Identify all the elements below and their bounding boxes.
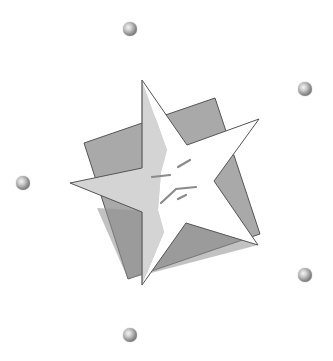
sphere-bottom-icon <box>123 328 137 342</box>
star-square-graphic <box>0 0 333 361</box>
sphere-right-lower-icon <box>298 268 312 282</box>
sphere-right-upper-icon <box>298 82 312 96</box>
sphere-left-icon <box>16 176 30 190</box>
sphere-top-icon <box>123 22 137 36</box>
illustration: Grayscale clip-art: white five-point sta… <box>0 0 333 361</box>
